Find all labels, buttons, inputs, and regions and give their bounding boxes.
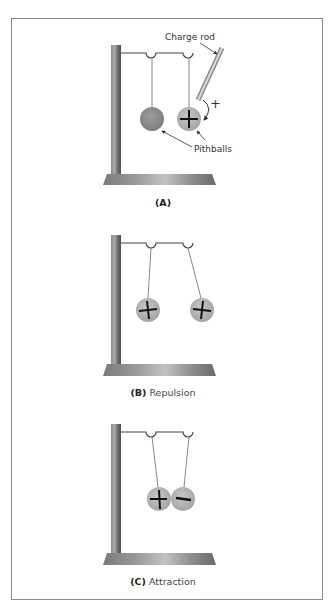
stand-base [103, 174, 216, 185]
leader-line [162, 131, 192, 147]
stand-base [103, 553, 216, 565]
label-pithballs: Pithballs [194, 144, 232, 154]
stand-pole [111, 235, 121, 365]
label-charge-rod: Charge rod [165, 32, 215, 42]
crossbar-hooks [121, 432, 193, 437]
stand-pole [111, 424, 121, 554]
stand-pole [111, 45, 121, 175]
string [152, 437, 158, 487]
stand-base [103, 364, 216, 376]
crossbar-hooks [121, 53, 193, 58]
panel-c: (C) Attraction [103, 424, 216, 587]
rod-charge-sign: + [210, 96, 221, 111]
panel-b: (B) Repulsion [103, 235, 216, 398]
pithball-uncharged [140, 107, 164, 131]
caption-a: (A) [155, 197, 171, 208]
pithball-diagram: + Charge rod Pithballs (A) (B) Repulsion [0, 0, 336, 614]
caption-b: (B) Repulsion [130, 387, 195, 398]
charge-rod [198, 48, 222, 100]
leader-line [197, 131, 205, 140]
charge-transfer-arrow [203, 100, 209, 120]
leader-line [200, 43, 217, 54]
caption-c: (C) Attraction [130, 576, 196, 587]
string [188, 248, 201, 298]
crossbar-hooks [121, 243, 193, 248]
panel-a: + Charge rod Pithballs (A) [103, 32, 232, 208]
string [148, 248, 151, 298]
string [184, 437, 189, 487]
